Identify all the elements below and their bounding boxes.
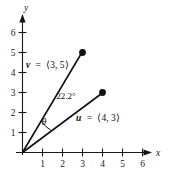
vector-u-components: ⟨4, 3⟩	[97, 113, 119, 123]
svg-text:u = ⟨4, 3⟩: u = ⟨4, 3⟩	[76, 113, 120, 123]
y-axis-label: y	[23, 3, 29, 13]
x-axis-arrowhead	[144, 149, 153, 155]
angle-measure-label: 22.2°	[56, 91, 76, 101]
x-axis-label: x	[155, 148, 161, 158]
vector-v-endpoint-dot	[79, 49, 86, 56]
vector-v-components: ⟨3, 5⟩	[46, 60, 68, 70]
x-tick-label-4: 4	[100, 159, 105, 169]
tick-labels-group: 1 2 3 4 5 6 1 2 3 4 5 6	[11, 28, 146, 169]
y-tick-label-2: 2	[11, 108, 16, 118]
vector-u-endpoint-dot	[99, 89, 106, 96]
y-tick-label-3: 3	[11, 88, 16, 98]
x-tick-label-2: 2	[60, 159, 65, 169]
vector-u-name: u	[76, 113, 81, 123]
theta-label: θ	[42, 116, 47, 127]
vector-v-label: v = ⟨3, 5⟩	[26, 60, 69, 70]
axes-group	[16, 14, 152, 157]
y-tick-label-6: 6	[11, 28, 16, 38]
x-tick-label-6: 6	[140, 159, 145, 169]
vector-v-name: v	[26, 60, 31, 70]
y-axis-arrowhead	[19, 14, 25, 23]
vector-u-line	[23, 94, 102, 153]
vector-u-equals: =	[87, 113, 92, 123]
x-tick-label-3: 3	[80, 159, 85, 169]
y-tick-label-4: 4	[11, 68, 16, 78]
y-tick-label-5: 5	[11, 48, 16, 58]
vector-u-label: u = ⟨4, 3⟩	[76, 113, 120, 123]
x-tick-label-1: 1	[40, 159, 45, 169]
y-tick-label-1: 1	[11, 128, 16, 138]
vector-diagram-svg: 1 2 3 4 5 6 1 2 3 4 5 6 x y θ	[0, 0, 170, 174]
svg-text:v = ⟨3, 5⟩: v = ⟨3, 5⟩	[26, 60, 69, 70]
vector-v-equals: =	[36, 60, 41, 70]
x-tick-label-5: 5	[120, 159, 125, 169]
vector-diagram-figure: 1 2 3 4 5 6 1 2 3 4 5 6 x y θ	[0, 0, 170, 174]
